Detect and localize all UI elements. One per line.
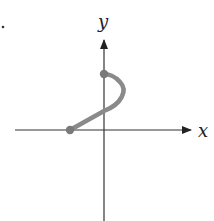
x-axis-label: x xyxy=(198,120,208,141)
bullet-dot xyxy=(2,26,5,29)
graph-canvas: x y xyxy=(0,0,214,221)
curve-path xyxy=(70,74,123,130)
curve-start-point xyxy=(66,126,74,134)
curve-end-point xyxy=(100,70,108,78)
y-axis-label: y xyxy=(97,11,109,32)
